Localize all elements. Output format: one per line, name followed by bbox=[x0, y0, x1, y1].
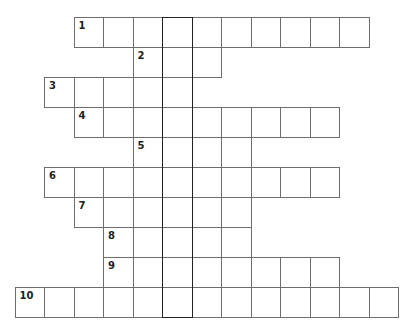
crossword-cell[interactable]: 7 bbox=[74, 197, 105, 228]
clue-number: 5 bbox=[138, 141, 145, 151]
crossword-cell[interactable] bbox=[133, 17, 164, 48]
crossword-cell[interactable] bbox=[162, 287, 193, 318]
crossword-cell[interactable]: 3 bbox=[44, 77, 75, 108]
crossword-cell[interactable] bbox=[133, 167, 164, 198]
crossword-cell[interactable]: 1 bbox=[74, 17, 105, 48]
crossword-cell[interactable] bbox=[103, 287, 134, 318]
crossword-cell[interactable] bbox=[192, 257, 223, 288]
crossword-cell[interactable] bbox=[192, 167, 223, 198]
crossword-cell[interactable] bbox=[251, 167, 282, 198]
crossword-cell[interactable] bbox=[192, 197, 223, 228]
crossword-cell[interactable]: 10 bbox=[15, 287, 46, 318]
crossword-cell[interactable] bbox=[162, 257, 193, 288]
clue-number: 4 bbox=[79, 111, 86, 121]
crossword-cell[interactable] bbox=[103, 167, 134, 198]
crossword-cell[interactable] bbox=[310, 17, 341, 48]
crossword-cell[interactable] bbox=[280, 257, 311, 288]
crossword-cell[interactable] bbox=[339, 17, 370, 48]
crossword-cell[interactable] bbox=[133, 107, 164, 138]
crossword-cell[interactable] bbox=[221, 137, 252, 168]
clue-number: 10 bbox=[20, 291, 34, 301]
crossword-cell[interactable] bbox=[280, 287, 311, 318]
crossword-cell[interactable] bbox=[251, 257, 282, 288]
crossword-cell[interactable] bbox=[251, 17, 282, 48]
crossword-cell[interactable]: 4 bbox=[74, 107, 105, 138]
crossword-cell[interactable] bbox=[74, 167, 105, 198]
crossword-cell[interactable] bbox=[103, 107, 134, 138]
crossword-cell[interactable] bbox=[221, 167, 252, 198]
crossword-cell[interactable] bbox=[221, 197, 252, 228]
crossword-cell[interactable] bbox=[103, 17, 134, 48]
crossword-cell[interactable] bbox=[133, 197, 164, 228]
crossword-cell[interactable] bbox=[310, 257, 341, 288]
crossword-cell[interactable] bbox=[221, 257, 252, 288]
crossword-cell[interactable] bbox=[44, 287, 75, 318]
clue-number: 8 bbox=[108, 231, 115, 241]
clue-number: 3 bbox=[49, 81, 56, 91]
clue-number: 2 bbox=[138, 51, 145, 61]
crossword-cell[interactable] bbox=[280, 107, 311, 138]
crossword-cell[interactable] bbox=[310, 167, 341, 198]
crossword-grid: 12345678910 bbox=[0, 0, 409, 330]
crossword-cell[interactable] bbox=[162, 77, 193, 108]
crossword-cell[interactable] bbox=[162, 47, 193, 78]
clue-number: 1 bbox=[79, 21, 86, 31]
crossword-cell[interactable] bbox=[162, 107, 193, 138]
crossword-cell[interactable] bbox=[369, 287, 400, 318]
crossword-cell[interactable] bbox=[339, 287, 370, 318]
crossword-cell[interactable] bbox=[192, 287, 223, 318]
crossword-cell[interactable] bbox=[221, 287, 252, 318]
crossword-cell[interactable] bbox=[103, 197, 134, 228]
crossword-cell[interactable] bbox=[280, 17, 311, 48]
crossword-cell[interactable] bbox=[133, 227, 164, 258]
crossword-cell[interactable] bbox=[133, 77, 164, 108]
crossword-cell[interactable] bbox=[221, 107, 252, 138]
crossword-cell[interactable] bbox=[192, 137, 223, 168]
crossword-cell[interactable] bbox=[251, 107, 282, 138]
crossword-cell[interactable] bbox=[162, 17, 193, 48]
crossword-cell[interactable]: 5 bbox=[133, 137, 164, 168]
clue-number: 7 bbox=[79, 201, 86, 211]
crossword-cell[interactable] bbox=[192, 227, 223, 258]
clue-number: 6 bbox=[49, 171, 56, 181]
crossword-cell[interactable]: 6 bbox=[44, 167, 75, 198]
crossword-cell[interactable]: 2 bbox=[133, 47, 164, 78]
crossword-cell[interactable] bbox=[133, 287, 164, 318]
crossword-cell[interactable] bbox=[221, 227, 252, 258]
crossword-cell[interactable] bbox=[133, 257, 164, 288]
crossword-cell[interactable] bbox=[221, 17, 252, 48]
crossword-cell[interactable]: 9 bbox=[103, 257, 134, 288]
crossword-cell[interactable]: 8 bbox=[103, 227, 134, 258]
crossword-cell[interactable] bbox=[162, 197, 193, 228]
crossword-cell[interactable] bbox=[162, 137, 193, 168]
crossword-cell[interactable] bbox=[74, 287, 105, 318]
crossword-cell[interactable] bbox=[192, 47, 223, 78]
crossword-cell[interactable] bbox=[310, 287, 341, 318]
crossword-cell[interactable] bbox=[310, 107, 341, 138]
crossword-cell[interactable] bbox=[280, 167, 311, 198]
crossword-cell[interactable] bbox=[192, 107, 223, 138]
crossword-cell[interactable] bbox=[192, 17, 223, 48]
crossword-cell[interactable] bbox=[162, 227, 193, 258]
crossword-cell[interactable] bbox=[162, 167, 193, 198]
crossword-cell[interactable] bbox=[103, 77, 134, 108]
crossword-cell[interactable] bbox=[251, 287, 282, 318]
clue-number: 9 bbox=[108, 261, 115, 271]
crossword-cell[interactable] bbox=[74, 77, 105, 108]
